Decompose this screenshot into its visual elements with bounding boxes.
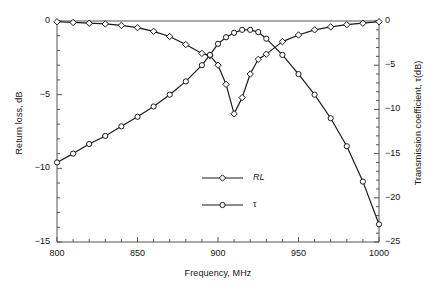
- data-point-marker-tau: [344, 144, 349, 149]
- y-tick-label-left: 0: [16, 15, 50, 25]
- x-tick-label: 1000: [359, 248, 399, 258]
- data-point-marker-RL: [150, 28, 156, 34]
- data-point-marker-tau: [312, 92, 317, 97]
- data-point-marker-tau: [223, 35, 228, 40]
- data-point-marker-RL: [247, 71, 253, 77]
- data-point-marker-tau: [232, 30, 237, 35]
- data-point-marker-tau: [207, 52, 212, 57]
- series-tau: [54, 27, 381, 227]
- data-point-marker-tau: [54, 160, 59, 165]
- data-point-marker-RL: [376, 19, 382, 25]
- legend-label-τ: τ: [253, 199, 257, 209]
- data-point-marker-RL: [167, 33, 173, 39]
- y-tick-label-right: 0: [385, 15, 419, 25]
- figure: Return loss, dB Transmission coefficient…: [0, 0, 434, 292]
- data-point-marker-RL: [199, 50, 205, 56]
- y-tick-label-left: −5: [16, 89, 50, 99]
- data-point-marker-RL: [134, 24, 140, 30]
- series-line-tau: [57, 30, 379, 224]
- data-point-marker-RL: [102, 21, 108, 27]
- data-point-marker-RL: [70, 19, 76, 25]
- x-tick-label: 950: [279, 248, 319, 258]
- data-point-marker-tau: [199, 63, 204, 68]
- data-series: [54, 19, 382, 227]
- data-point-marker-tau: [264, 36, 269, 41]
- data-point-marker-RL: [311, 27, 317, 33]
- data-point-marker-tau: [103, 133, 108, 138]
- y-tick-label-left: −10: [16, 162, 50, 172]
- data-point-marker-tau: [119, 124, 124, 129]
- data-point-marker-tau: [248, 27, 253, 32]
- x-tick-label: 850: [118, 248, 158, 258]
- data-point-marker-RL: [54, 19, 60, 25]
- axes-frame: [57, 21, 379, 242]
- series-RL: [54, 19, 382, 117]
- y-tick-label-right: −25: [385, 236, 419, 246]
- data-point-marker-RL: [239, 94, 245, 100]
- x-axis-label: Frequency, MHz: [57, 268, 379, 278]
- data-point-marker-RL: [223, 81, 229, 87]
- data-point-marker-tau: [376, 222, 381, 227]
- legend-label-RL: RL: [253, 172, 265, 182]
- data-point-marker-tau: [296, 71, 301, 76]
- y-tick-label-left: −15: [16, 236, 50, 246]
- data-point-marker-tau: [280, 52, 285, 57]
- legend-markers: [202, 175, 243, 208]
- data-point-marker-tau: [256, 29, 261, 34]
- legend-marker-diamond: [219, 175, 225, 181]
- data-point-marker-tau: [183, 79, 188, 84]
- y-tick-label-right: −15: [385, 148, 419, 158]
- data-point-marker-tau: [328, 116, 333, 121]
- data-point-marker-tau: [240, 27, 245, 32]
- data-point-marker-tau: [215, 41, 220, 46]
- data-point-marker-tau: [151, 104, 156, 109]
- data-point-marker-tau: [71, 151, 76, 156]
- x-tick-label: 900: [198, 248, 238, 258]
- data-point-marker-tau: [135, 114, 140, 119]
- x-tick-label: 800: [37, 248, 77, 258]
- data-point-marker-RL: [328, 24, 334, 30]
- data-point-marker-RL: [344, 21, 350, 27]
- data-point-marker-tau: [360, 179, 365, 184]
- data-point-marker-tau: [167, 92, 172, 97]
- data-point-marker-RL: [183, 41, 189, 47]
- data-point-marker-RL: [295, 32, 301, 38]
- y-tick-label-right: −5: [385, 59, 419, 69]
- tick-marks: [57, 21, 379, 242]
- legend-marker-circle: [220, 202, 225, 207]
- y-tick-label-right: −10: [385, 103, 419, 113]
- y-tick-label-right: −20: [385, 192, 419, 202]
- data-point-marker-RL: [255, 56, 261, 62]
- data-point-marker-RL: [231, 111, 237, 117]
- data-point-marker-tau: [87, 141, 92, 146]
- data-point-marker-RL: [118, 22, 124, 28]
